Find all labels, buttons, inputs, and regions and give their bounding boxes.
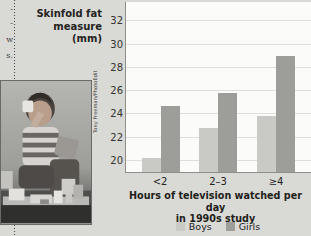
x-axis-label: Hours of television watched per day in 1… (120, 190, 311, 225)
legend-swatch-icon (176, 222, 185, 231)
left-text-fragment: - (10, 6, 13, 14)
x-tick-label: 2–3 (199, 176, 237, 190)
y-tick-label: 22 (110, 131, 123, 142)
photo-artwork (1, 81, 91, 223)
legend-label-boys: Boys (189, 221, 212, 232)
bar-group-lt2 (142, 2, 180, 172)
bar-group-2to3 (199, 2, 237, 172)
chart-legend: Boys Girls (125, 221, 311, 232)
y-tick-label: 30 (110, 38, 123, 49)
y-axis-label-line1: Skinfold fat (26, 8, 102, 21)
left-text-fragment: w (6, 36, 13, 44)
boy-watching-tv-photo (0, 80, 92, 225)
photo-credit: Tony Freeman/PhotoEdit (92, 37, 98, 133)
y-tick-label: 24 (110, 108, 123, 119)
left-text-fragment: - (10, 20, 13, 28)
bar-boys-lt2 (142, 158, 161, 172)
y-tick-label: 32 (110, 15, 123, 26)
bar-girls-2to3 (218, 93, 237, 172)
x-axis-ticks: <2 2–3 ≥4 (125, 176, 311, 190)
bar-group-ge4 (257, 2, 295, 172)
bar-boys-2to3 (199, 128, 218, 172)
legend-item-boys: Boys (176, 221, 212, 232)
y-tick-label: 26 (110, 85, 123, 96)
legend-item-girls: Girls (226, 221, 261, 232)
y-axis-label-line2: measure (mm) (26, 21, 102, 46)
chart-plot-area (125, 2, 311, 173)
bar-groups (126, 2, 311, 172)
y-axis-label: Skinfold fat measure (mm) (26, 8, 102, 46)
y-axis-ticks: 20 22 24 26 28 30 32 (103, 2, 123, 173)
bar-boys-ge4 (257, 116, 276, 172)
x-tick-label: ≥4 (257, 176, 295, 190)
left-text-fragment: s. (6, 52, 13, 60)
x-axis-label-line1: Hours of television watched per day (120, 190, 311, 213)
y-tick-label: 28 (110, 61, 123, 72)
figure-page: - - w s. (0, 0, 311, 236)
x-tick-label: <2 (141, 176, 179, 190)
legend-label-girls: Girls (239, 221, 261, 232)
y-tick-label: 20 (110, 155, 123, 166)
bar-girls-ge4 (276, 56, 295, 173)
bar-girls-lt2 (161, 106, 180, 172)
legend-swatch-icon (226, 222, 235, 231)
